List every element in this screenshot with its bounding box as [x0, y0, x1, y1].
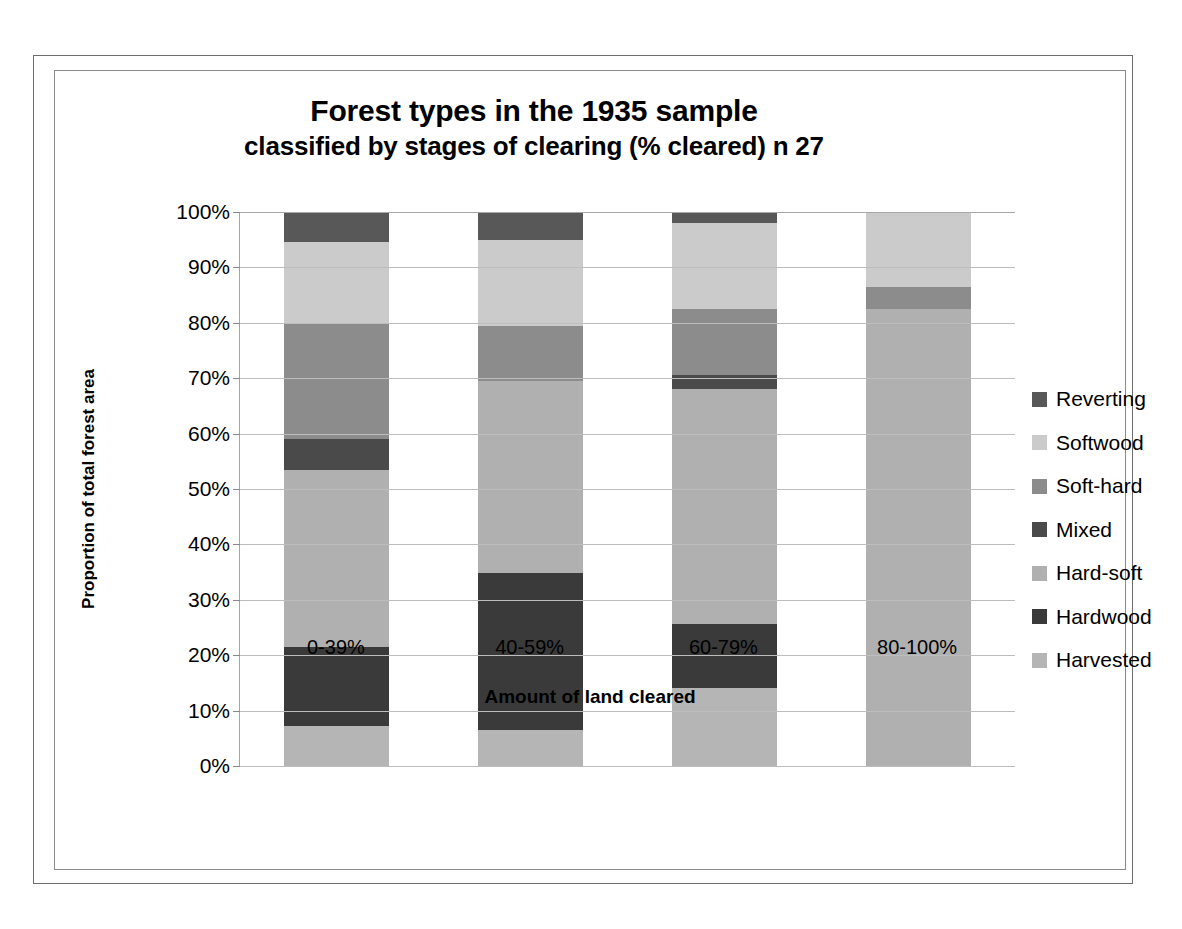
- legend-swatch-icon: [1032, 653, 1047, 668]
- bar-segment-reverting[interactable]: [672, 212, 777, 223]
- gridline: [240, 766, 1015, 767]
- legend-label: Softwood: [1056, 431, 1144, 455]
- gridline: [240, 711, 1015, 712]
- gridline: [240, 378, 1015, 379]
- legend-label: Mixed: [1056, 518, 1112, 542]
- gridline: [240, 267, 1015, 268]
- gridline: [240, 212, 1015, 213]
- y-axis-tick-label: 90%: [188, 255, 230, 279]
- y-axis-tick-label: 80%: [188, 311, 230, 335]
- bar-segment-softwood[interactable]: [672, 223, 777, 309]
- legend-item-hardwood[interactable]: Hardwood: [1032, 606, 1182, 628]
- legend-swatch-icon: [1032, 522, 1047, 537]
- legend-label: Hardwood: [1056, 605, 1152, 629]
- bar-segment-reverting[interactable]: [478, 212, 583, 240]
- y-axis-tick-label: 0%: [200, 754, 230, 778]
- gridline: [240, 489, 1015, 490]
- bar-segment-mixed[interactable]: [284, 439, 389, 469]
- plot-area: 0%10%20%30%40%50%60%70%80%90%100%: [239, 212, 1015, 767]
- bar-segment-hard-soft[interactable]: [672, 389, 777, 624]
- legend-item-reverting[interactable]: Reverting: [1032, 388, 1182, 410]
- y-axis-tick-label: 100%: [176, 200, 230, 224]
- bar-segment-softwood[interactable]: [866, 212, 971, 287]
- x-axis-tick-label-60-79%: 60-79%: [643, 636, 803, 659]
- legend-label: Soft-hard: [1056, 474, 1142, 498]
- y-axis-tick-label: 30%: [188, 588, 230, 612]
- y-axis-tick: [233, 711, 240, 712]
- legend-swatch-icon: [1032, 392, 1047, 407]
- legend-label: Hard-soft: [1056, 561, 1142, 585]
- bar-segment-soft-hard[interactable]: [866, 287, 971, 309]
- bar-segment-softwood[interactable]: [478, 240, 583, 326]
- x-axis-title: Amount of land cleared: [54, 686, 1126, 708]
- x-axis-tick-label-40-59%: 40-59%: [450, 636, 610, 659]
- bar-segment-softwood[interactable]: [284, 242, 389, 322]
- bar-segment-hard-soft[interactable]: [284, 470, 389, 647]
- legend-swatch-icon: [1032, 479, 1047, 494]
- legend-swatch-icon: [1032, 566, 1047, 581]
- chart-legend: RevertingSoftwoodSoft-hardMixedHard-soft…: [1032, 388, 1182, 693]
- x-axis-title-text: Amount of land cleared: [484, 686, 695, 707]
- y-axis-tick: [233, 323, 240, 324]
- x-axis-tick-label-80-100%: 80-100%: [837, 636, 997, 659]
- bar-segment-soft-hard[interactable]: [478, 326, 583, 381]
- bar-segment-soft-hard[interactable]: [284, 323, 389, 439]
- y-axis-tick: [233, 212, 240, 213]
- y-axis-tick-label: 20%: [188, 643, 230, 667]
- gridline: [240, 600, 1015, 601]
- y-axis-tick: [233, 489, 240, 490]
- chart-figure: Forest types in the 1935 sample classifi…: [54, 70, 1126, 870]
- bar-segment-harvested[interactable]: [478, 730, 583, 766]
- legend-item-soft-hard[interactable]: Soft-hard: [1032, 475, 1182, 497]
- bar-segment-harvested[interactable]: [284, 726, 389, 766]
- y-axis-tick: [233, 434, 240, 435]
- legend-item-softwood[interactable]: Softwood: [1032, 432, 1182, 454]
- bar-segment-soft-hard[interactable]: [672, 309, 777, 375]
- legend-swatch-icon: [1032, 609, 1047, 624]
- gridline: [240, 544, 1015, 545]
- y-axis-tick-label: 60%: [188, 422, 230, 446]
- legend-item-hard-soft[interactable]: Hard-soft: [1032, 562, 1182, 584]
- legend-item-mixed[interactable]: Mixed: [1032, 519, 1182, 541]
- y-axis-tick: [233, 378, 240, 379]
- plot-wrapper: 0%10%20%30%40%50%60%70%80%90%100% 0-39%4…: [54, 70, 1126, 870]
- y-axis-tick-label: 50%: [188, 477, 230, 501]
- bar-segment-reverting[interactable]: [284, 212, 389, 242]
- legend-swatch-icon: [1032, 435, 1047, 450]
- legend-label: Reverting: [1056, 387, 1146, 411]
- legend-item-harvested[interactable]: Harvested: [1032, 649, 1182, 671]
- y-axis-tick: [233, 600, 240, 601]
- y-axis-tick: [233, 267, 240, 268]
- legend-label: Harvested: [1056, 648, 1152, 672]
- y-axis-tick-label: 40%: [188, 532, 230, 556]
- y-axis-tick: [233, 766, 240, 767]
- x-axis-tick-label-0-39%: 0-39%: [256, 636, 416, 659]
- y-axis-tick-label: 70%: [188, 366, 230, 390]
- y-axis-tick: [233, 544, 240, 545]
- gridline: [240, 434, 1015, 435]
- gridline: [240, 323, 1015, 324]
- y-axis-tick: [233, 655, 240, 656]
